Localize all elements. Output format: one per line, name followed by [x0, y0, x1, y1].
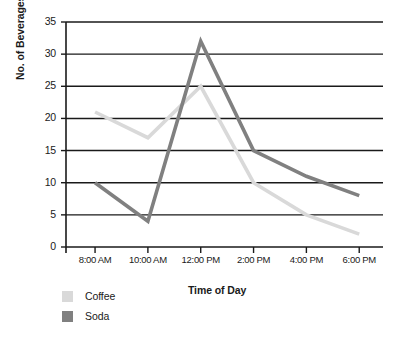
legend-label: Coffee: [85, 290, 115, 302]
plot-area: [0, 0, 402, 338]
legend-label: Soda: [85, 310, 109, 322]
legend-item-coffee[interactable]: Coffee: [62, 286, 115, 306]
chart-legend: CoffeeSoda: [62, 286, 115, 326]
line-chart: No. of Beverages Sold Time of Day 051015…: [0, 0, 402, 338]
legend-swatch-coffee: [62, 291, 73, 302]
legend-swatch-soda: [62, 311, 73, 322]
legend-item-soda[interactable]: Soda: [62, 306, 115, 326]
